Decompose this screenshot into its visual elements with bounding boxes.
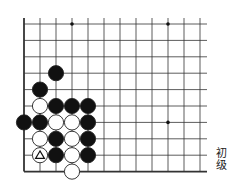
white-stone <box>64 115 79 130</box>
white-stone <box>32 131 47 146</box>
star-point <box>70 22 74 26</box>
black-stone <box>80 131 95 146</box>
black-stone <box>64 98 79 113</box>
level-label-line2: 级 <box>216 160 230 172</box>
black-stone <box>16 115 31 130</box>
white-stone <box>48 115 63 130</box>
black-stone <box>80 98 95 113</box>
white-stone <box>64 131 79 146</box>
black-stone <box>32 115 47 130</box>
black-stone <box>80 115 95 130</box>
white-stone <box>32 98 47 113</box>
go-board <box>0 0 230 188</box>
black-stone <box>48 131 63 146</box>
white-stone <box>64 164 79 179</box>
black-stone <box>48 66 63 81</box>
white-stone <box>32 148 47 163</box>
star-point <box>166 121 170 125</box>
black-stone <box>48 148 63 163</box>
black-stone <box>48 98 63 113</box>
black-stone <box>80 148 95 163</box>
star-point <box>166 22 170 26</box>
white-stone <box>64 148 79 163</box>
black-stone <box>32 82 47 97</box>
level-label: 初 级 <box>216 148 230 172</box>
